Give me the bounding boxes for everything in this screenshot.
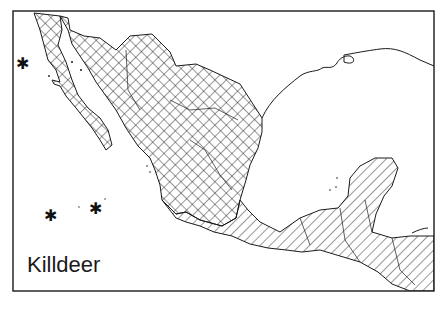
island-record-marker-3: ✱	[89, 201, 102, 217]
us-gulf-coastline	[262, 49, 434, 118]
species-label: Killdeer	[27, 252, 100, 278]
island-record-marker-1: ✱	[16, 56, 29, 72]
island-record-marker-2: ✱	[44, 208, 57, 224]
